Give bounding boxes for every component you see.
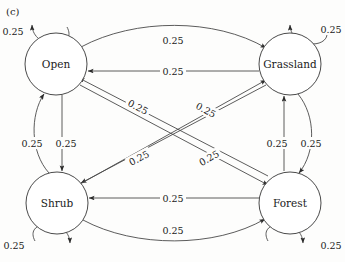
graph-canvas: Open Grassland Shrub Forest 0.25 0.25 [0, 0, 345, 262]
edge-weight-grassland-grassland: 0.25 [320, 24, 341, 35]
edge-label-shrub-open: 0.25 [19, 137, 45, 149]
edge-weight-forest-grassland: 0.25 [266, 138, 287, 149]
edge-forest-open [79, 78, 268, 176]
edge-label-shrub-forest: 0.25 [160, 224, 186, 236]
edge-label-grassland-open: 0.25 [160, 65, 186, 77]
edge-label-open-open: 0.25 [0, 25, 25, 37]
node-forest[interactable]: Forest [259, 172, 321, 234]
edge-weight-open-shrub: 0.25 [55, 138, 76, 149]
edge-weight-grassland-forest: 0.25 [300, 138, 321, 149]
edge-grassland-forest [298, 94, 312, 173]
edge-label-grassland-shrub: 0.25 [125, 147, 154, 170]
transition-diagram-figure: Open Grassland Shrub Forest 0.25 0.25 [0, 0, 345, 262]
edge-label-forest-forest: 0.25 [319, 239, 344, 251]
node-label-shrub: Shrub [41, 197, 74, 209]
edge-label-open-forest: 0.25 [192, 99, 221, 122]
node-shrub[interactable]: Shrub [26, 172, 88, 234]
edge-weight-shrub-forest: 0.25 [162, 225, 183, 236]
node-grassland[interactable]: Grassland [259, 33, 321, 95]
edge-weight-forest-shrub: 0.25 [162, 193, 183, 204]
edge-label-grassland-forest: 0.25 [298, 137, 324, 149]
edge-label-shrub-shrub: 0.25 [2, 239, 27, 251]
edge-label-forest-grassland: 0.25 [264, 137, 290, 149]
edge-label-open-shrub: 0.25 [53, 137, 79, 149]
panel-label: (c) [6, 6, 20, 17]
node-label-open: Open [42, 58, 71, 70]
node-label-grassland: Grassland [263, 58, 317, 70]
edge-shrub-open [34, 94, 49, 173]
edge-weight-open-grassland: 0.25 [162, 35, 183, 46]
edge-label-grassland-grassland: 0.25 [319, 23, 344, 35]
edge-weight-shrub-open: 0.25 [21, 138, 42, 149]
node-label-forest: Forest [273, 197, 308, 209]
edge-weight-grassland-open: 0.25 [162, 66, 183, 77]
edge-label-open-grassland: 0.25 [160, 34, 186, 46]
edge-open-forest [80, 85, 268, 185]
edge-label-forest-open: 0.25 [124, 96, 153, 118]
node-open[interactable]: Open [25, 33, 87, 95]
edge-label-forest-shrub: 0.25 [160, 192, 186, 204]
edge-weight-shrub-shrub: 0.25 [3, 240, 24, 251]
edge-weight-open-open: 0.25 [2, 26, 23, 37]
edge-weight-forest-open: 0.25 [126, 97, 150, 116]
edge-label-shrub-grassland: 0.25 [195, 146, 224, 169]
edge-weight-forest-forest: 0.25 [320, 240, 341, 251]
